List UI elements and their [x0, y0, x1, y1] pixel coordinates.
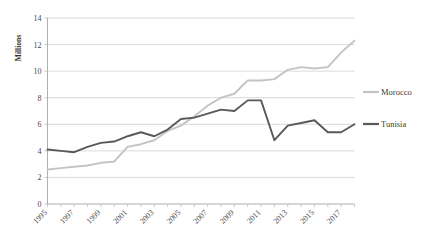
x-tick-label: 2005: [165, 208, 183, 226]
x-tick-label: 2009: [218, 208, 236, 226]
y-tick-label: 10: [34, 67, 42, 76]
y-tick-label: 2: [38, 173, 42, 182]
legend-label-tunisia: Tunisia: [381, 119, 406, 129]
series-line-morocco: [48, 41, 355, 170]
y-tick-label: 12: [34, 41, 42, 50]
y-tick-label: 14: [34, 14, 42, 23]
y-tick-label: 6: [38, 120, 42, 129]
data-series-group: [48, 41, 355, 170]
y-axis-title: Millions: [14, 35, 23, 61]
x-tick-label: 2017: [325, 208, 343, 226]
line-chart: 02468101214 1995199719992001200320052007…: [0, 0, 425, 251]
y-tick-label: 0: [38, 200, 42, 209]
x-axis-tick-labels: 1995199719992001200320052007200920112013…: [31, 208, 342, 226]
x-tick-label: 2007: [191, 208, 209, 226]
y-tick-label: 8: [38, 94, 42, 103]
x-tick-label: 2001: [111, 208, 129, 226]
gridlines: [48, 18, 355, 177]
y-tick-label: 4: [38, 147, 42, 156]
x-tick-label: 2015: [298, 208, 316, 226]
x-tick-label: 2003: [138, 208, 156, 226]
x-tick-label: 2013: [271, 208, 289, 226]
legend-label-morocco: Morocco: [381, 87, 412, 97]
x-tick-label: 2011: [245, 208, 262, 225]
series-line-tunisia: [48, 100, 355, 152]
legend: MoroccoTunisia: [363, 87, 412, 129]
x-tick-label: 1999: [85, 208, 103, 226]
chart-canvas: 02468101214 1995199719992001200320052007…: [0, 0, 425, 251]
y-axis-tick-labels: 02468101214: [34, 14, 42, 209]
x-tick-label: 1995: [31, 208, 49, 226]
x-tick-label: 1997: [58, 208, 76, 226]
